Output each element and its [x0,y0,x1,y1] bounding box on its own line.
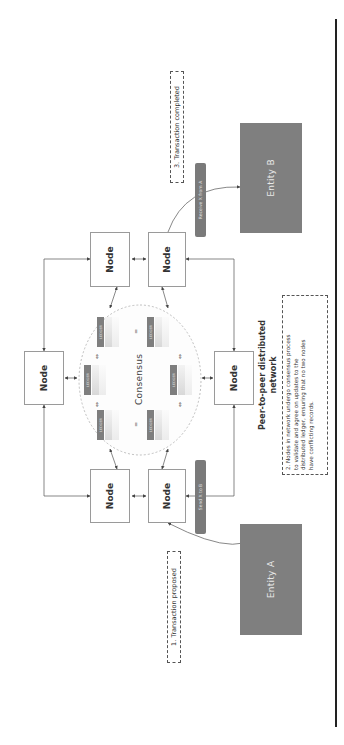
equals-symbol: = [132,422,139,427]
node-label: Node [229,365,239,391]
diagram-canvas: Node Node Node Node Node Node Consensus … [0,0,344,745]
node-middle-right[interactable]: Node [214,351,254,405]
equals-symbol: = [132,329,139,334]
ledger-tag: LEDGER [170,365,177,395]
equiv-symbol: ⇔ [176,354,183,359]
ledger-6: LEDGER [147,410,169,440]
frame-divider-line [335,19,337,727]
node-label: Node [105,483,115,509]
title-line-1: Peer-to-peer distributed [257,305,268,445]
title-line-2: network [268,305,279,445]
entity-b[interactable]: Entity B [240,123,302,233]
step-1-note: 1. Transaction proposed [167,551,181,663]
node-top-left[interactable]: Node [90,232,130,287]
ledger-5: LEDGER [97,410,119,440]
ledger-tag: LEDGER [84,365,91,395]
equiv-symbol: ⇔ [176,402,183,407]
ledger-1: LEDGER [97,317,119,347]
ledger-3: LEDGER [84,365,106,395]
ledger-tag: LEDGER [147,410,154,440]
equiv-symbol: ⇔ [93,354,100,359]
node-label: Node [39,365,49,391]
diagram-title: Peer-to-peer distributed network [257,305,279,445]
send-edge-label: Send X to B [195,460,206,534]
node-label: Node [105,246,115,272]
equiv-symbol: ⇔ [93,402,100,407]
entity-a[interactable]: Entity A [240,524,302,635]
node-top-right[interactable]: Node [148,232,186,287]
node-bottom-right[interactable]: Node [148,469,186,523]
entity-b-label: Entity B [266,159,276,197]
ledger-tag: LEDGER [97,410,104,440]
step-3-note: 3. Transaction completed [170,71,184,183]
entity-a-label: Entity A [266,561,276,599]
ledger-tag: LEDGER [97,317,104,347]
receive-edge-label: Receive X from A [195,163,206,237]
step-2-note: 2. Nodes in network undergo consensus pr… [282,295,328,475]
node-middle-left[interactable]: Node [24,351,64,405]
ledger-tag: LEDGER [147,317,154,347]
node-label: Node [162,246,172,272]
ledger-2: LEDGER [147,317,169,347]
ledger-4: LEDGER [170,365,192,395]
node-bottom-left[interactable]: Node [90,469,130,523]
consensus-label: Consensus [134,354,144,405]
node-label: Node [162,483,172,509]
